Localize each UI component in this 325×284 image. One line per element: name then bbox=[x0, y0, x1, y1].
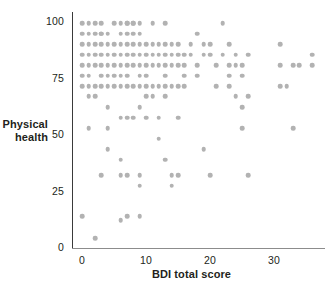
data-point bbox=[118, 173, 123, 178]
data-point bbox=[208, 52, 213, 57]
data-point bbox=[150, 84, 155, 89]
x-tick-label: 0 bbox=[79, 254, 85, 266]
data-point bbox=[246, 173, 251, 178]
data-point bbox=[118, 52, 123, 57]
data-point bbox=[99, 42, 104, 47]
data-point bbox=[176, 42, 181, 47]
data-point bbox=[240, 63, 245, 68]
y-tick-label: 0 bbox=[58, 241, 64, 253]
data-point bbox=[208, 173, 213, 178]
data-point bbox=[144, 63, 149, 68]
data-point bbox=[163, 21, 168, 26]
data-point bbox=[86, 31, 91, 36]
y-tick-label: 100 bbox=[46, 15, 64, 27]
data-point bbox=[227, 42, 232, 47]
data-point bbox=[118, 63, 123, 68]
x-axis-title: BDI total score bbox=[0, 268, 325, 280]
data-point bbox=[99, 31, 104, 36]
data-point bbox=[80, 52, 85, 57]
y-tick-label: 25 bbox=[52, 185, 64, 197]
x-tick-label: 10 bbox=[140, 254, 152, 266]
data-point bbox=[227, 63, 232, 68]
data-point bbox=[137, 105, 142, 110]
data-point bbox=[125, 173, 130, 178]
data-point bbox=[150, 21, 155, 26]
data-point bbox=[163, 52, 168, 57]
data-point bbox=[163, 73, 168, 78]
data-point bbox=[310, 52, 315, 57]
data-point bbox=[112, 84, 117, 89]
data-point bbox=[278, 84, 283, 89]
data-point bbox=[157, 115, 162, 120]
data-point bbox=[169, 173, 174, 178]
data-point bbox=[176, 84, 181, 89]
data-point bbox=[99, 84, 104, 89]
data-point bbox=[137, 214, 142, 219]
data-point bbox=[137, 173, 142, 178]
data-point bbox=[137, 31, 142, 36]
data-point bbox=[99, 173, 104, 178]
data-point bbox=[182, 63, 187, 68]
data-point bbox=[246, 52, 251, 57]
data-point bbox=[169, 42, 174, 47]
data-point bbox=[163, 94, 168, 99]
data-point bbox=[125, 214, 130, 219]
data-point bbox=[201, 42, 206, 47]
data-point bbox=[80, 63, 85, 68]
data-point bbox=[214, 84, 219, 89]
data-point bbox=[93, 63, 98, 68]
data-point bbox=[163, 42, 168, 47]
data-point bbox=[86, 52, 91, 57]
data-point bbox=[131, 52, 136, 57]
data-point bbox=[137, 73, 142, 78]
data-point bbox=[233, 52, 238, 57]
data-point bbox=[105, 147, 110, 152]
data-point bbox=[118, 31, 123, 36]
data-point bbox=[278, 63, 283, 68]
data-point bbox=[227, 84, 232, 89]
data-point bbox=[137, 184, 142, 189]
data-point bbox=[105, 52, 110, 57]
data-point bbox=[201, 147, 206, 152]
data-point bbox=[112, 52, 117, 57]
plot-area bbox=[72, 12, 325, 249]
data-point bbox=[291, 126, 296, 131]
scatter-chart: 100 75 50 25 0 Physical health 0 10 20 3… bbox=[0, 0, 325, 284]
data-point bbox=[157, 63, 162, 68]
data-point bbox=[86, 94, 91, 99]
data-point bbox=[169, 184, 174, 189]
data-point bbox=[99, 73, 104, 78]
data-point bbox=[125, 73, 130, 78]
data-point bbox=[144, 73, 149, 78]
data-point bbox=[297, 63, 302, 68]
data-point bbox=[112, 73, 117, 78]
data-point bbox=[137, 42, 142, 47]
data-point bbox=[233, 94, 238, 99]
data-point bbox=[157, 84, 162, 89]
data-point bbox=[80, 73, 85, 78]
data-point bbox=[144, 94, 149, 99]
data-point bbox=[144, 52, 149, 57]
data-point bbox=[150, 42, 155, 47]
data-point bbox=[189, 42, 194, 47]
data-point bbox=[105, 63, 110, 68]
data-point bbox=[137, 84, 142, 89]
data-point bbox=[80, 214, 85, 219]
data-point bbox=[195, 31, 200, 36]
data-point bbox=[99, 63, 104, 68]
data-point bbox=[118, 73, 123, 78]
data-point bbox=[86, 126, 91, 131]
data-point bbox=[118, 21, 123, 26]
data-point bbox=[125, 115, 130, 120]
data-point bbox=[220, 21, 225, 26]
data-point bbox=[93, 84, 98, 89]
data-point bbox=[105, 84, 110, 89]
data-point bbox=[240, 105, 245, 110]
data-point bbox=[163, 84, 168, 89]
data-point bbox=[137, 63, 142, 68]
y-axis-title-line2: health bbox=[0, 131, 48, 144]
data-point bbox=[118, 115, 123, 120]
data-point bbox=[118, 157, 123, 162]
data-point bbox=[105, 42, 110, 47]
data-point bbox=[169, 52, 174, 57]
